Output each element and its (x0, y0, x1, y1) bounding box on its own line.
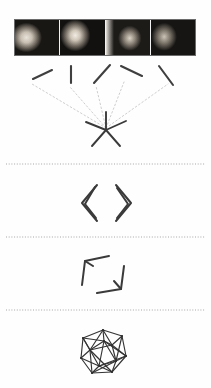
polyhedron-vertex-7 (111, 344, 113, 346)
convergence-star (86, 112, 126, 146)
polyhedron-edge-33 (104, 341, 126, 356)
polyhedron-edge-4 (92, 372, 112, 373)
fan-strokes (33, 65, 173, 85)
polyhedron-vertex-3 (111, 371, 113, 373)
figure-root (0, 0, 211, 388)
stroke-4 (121, 66, 142, 76)
polyhedron-edge-23 (83, 338, 104, 341)
ray-1 (32, 84, 106, 128)
stroke-3 (94, 65, 110, 83)
upper-left-arrow (82, 256, 109, 285)
lower-right-arrow-barb (114, 281, 121, 289)
chevron-pair-panel (82, 185, 131, 221)
polyhedron-vertex-8 (115, 360, 117, 362)
polyhedron-vertex-1 (121, 335, 123, 337)
arrow-pair-panel (82, 256, 124, 293)
star-spoke-5 (92, 130, 106, 146)
polyhedron-edge-20 (81, 350, 90, 358)
polyhedron-edge-6 (81, 338, 83, 358)
polyhedron-vertex-5 (80, 357, 82, 359)
polyhedron-vertex-9 (98, 365, 100, 367)
ray-5 (106, 84, 168, 128)
polyhedron-vertex-6 (82, 337, 84, 339)
stroke-1 (33, 70, 52, 79)
polyhedron-vertex-4 (91, 372, 93, 374)
fan-star-panel (32, 65, 173, 146)
ray-4 (106, 82, 124, 128)
stroke-5 (159, 66, 173, 85)
polyhedron-vertex-0 (102, 329, 104, 331)
polyhedron-vertex-11 (103, 340, 105, 342)
upper-left-arrow-barb (85, 261, 93, 266)
polyhedron-edge-29 (83, 338, 90, 350)
polyhedron-vertex-2 (125, 355, 127, 357)
fan-rays (32, 82, 168, 128)
star-spoke-4 (106, 130, 120, 146)
panel-separators (6, 164, 205, 310)
star-spoke-1 (86, 122, 106, 130)
polyhedron-vertex-10 (89, 349, 91, 351)
figure-vector-layer (0, 0, 211, 388)
polyhedron-panel (80, 329, 127, 374)
